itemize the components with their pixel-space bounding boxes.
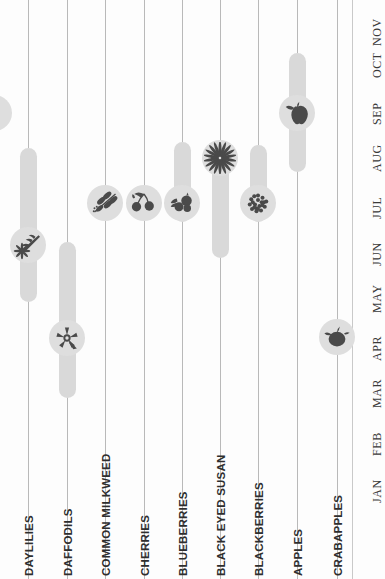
season-node-blackberries[interactable] [240, 185, 276, 221]
blueberries-icon [167, 188, 197, 218]
daffodil-flower-icon [53, 324, 81, 352]
month-label-mar: MAR [370, 379, 385, 408]
season-node-black-eyed-susan[interactable] [202, 140, 238, 176]
season-node-daylilies[interactable] [10, 227, 46, 263]
month-label-aug: AUG [370, 144, 385, 172]
gridline-cherries [144, 0, 145, 579]
partial-offscreen-node[interactable] [0, 95, 12, 131]
month-label-feb: FEB [370, 432, 385, 456]
month-label-may: MAY [370, 284, 385, 313]
category-label-black-eyed-susan: BLACK EYED SUSAN [215, 455, 227, 576]
black-eyed-susan-flower-icon [204, 142, 236, 174]
category-label-blueberries: BLUEBERRIES [177, 491, 189, 576]
month-axis-line [352, 0, 353, 579]
category-label-daylilies: DAYLILIES [23, 515, 35, 576]
month-label-jun: JUN [370, 242, 385, 266]
season-node-blueberries[interactable] [164, 185, 200, 221]
season-bar-daylilies[interactable] [20, 148, 37, 302]
month-label-apr: APR [370, 336, 385, 361]
month-label-jul: JUL [370, 197, 385, 219]
milkweed-leaf-icon [90, 188, 120, 218]
cherries-icon [129, 188, 159, 218]
category-label-blackberries: BLACKBERRIES [253, 482, 265, 576]
month-label-jan: JAN [370, 479, 385, 503]
month-label-nov: NOV [370, 18, 385, 46]
season-node-cherries[interactable] [126, 185, 162, 221]
season-node-apples[interactable] [279, 95, 315, 131]
apple-icon [282, 98, 312, 128]
partial-icon [0, 100, 7, 126]
month-label-oct: OCT [370, 52, 385, 78]
crabapple-icon [323, 323, 351, 351]
season-node-crabapples[interactable] [319, 319, 355, 355]
season-node-daffodils[interactable] [49, 320, 85, 356]
month-label-sep: SEP [370, 103, 385, 125]
blackberry-icon [243, 188, 273, 218]
category-label-daffodils: DAFFODILS [62, 508, 74, 576]
category-label-cherries: CHERRIES [139, 515, 151, 576]
category-label-common-milkweed: COMMON MILKWEED [100, 454, 112, 576]
category-label-crabapples: CRABAPPLES [332, 495, 344, 576]
season-node-common-milkweed[interactable] [87, 185, 123, 221]
category-label-apples: APPLES [292, 529, 304, 576]
gridline-crabapples [337, 0, 338, 579]
daylily-flower-icon [13, 230, 43, 260]
